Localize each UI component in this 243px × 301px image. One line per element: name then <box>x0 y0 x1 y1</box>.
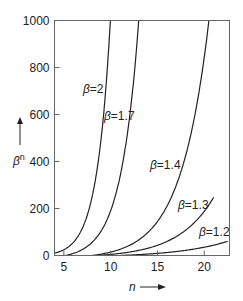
series-line-1.4 <box>92 21 209 256</box>
curves <box>55 21 228 256</box>
x-ticks: 5101520 <box>61 251 212 274</box>
x-tick-label: 5 <box>61 260 68 274</box>
x-tick-label: 15 <box>151 260 165 274</box>
x-tick-label: 10 <box>104 260 118 274</box>
x-axis-label: n <box>129 280 136 294</box>
plot-frame <box>55 21 230 256</box>
series-label: β=2 <box>82 82 104 96</box>
y-tick-label: 1000 <box>23 14 50 28</box>
series-label: β=1.4 <box>149 158 181 172</box>
series-line-1.2 <box>120 241 228 255</box>
y-tick-label: 600 <box>29 108 49 122</box>
y-tick-label: 400 <box>29 155 49 169</box>
series-line-1.7 <box>66 21 139 256</box>
y-axis-arrowhead <box>17 117 23 124</box>
y-axis-label: βn <box>12 152 25 168</box>
chart: 02004006008001000 5101520 β=2β=1.7β=1.4β… <box>0 0 243 301</box>
x-axis-arrowhead <box>158 284 166 290</box>
series-label: β=1.7 <box>103 109 135 123</box>
series-line-2 <box>55 21 111 254</box>
series-label: β=1.3 <box>177 198 209 212</box>
x-tick-label: 20 <box>198 260 212 274</box>
series-label: β=1.2 <box>198 225 230 239</box>
y-ticks: 02004006008001000 <box>23 14 60 263</box>
y-tick-label: 800 <box>29 61 49 75</box>
y-tick-label: 200 <box>29 202 49 216</box>
y-tick-label: 0 <box>43 249 50 263</box>
